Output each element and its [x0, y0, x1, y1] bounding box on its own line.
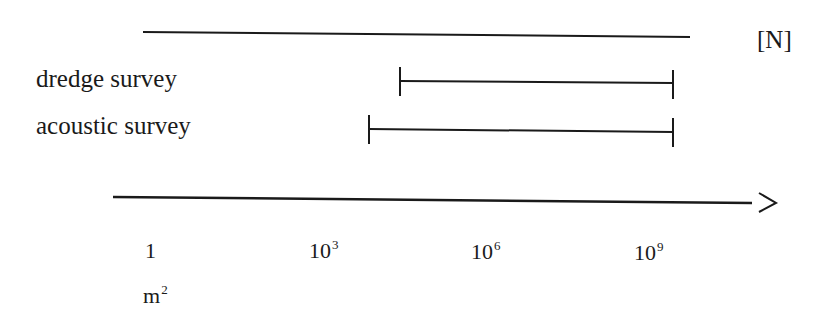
- dredge-survey-range: [400, 67, 673, 99]
- row-label-dredge-survey: dredge survey: [36, 66, 177, 91]
- row-label-acoustic-survey: acoustic survey: [36, 113, 191, 138]
- tick-label-1: 1: [145, 238, 157, 262]
- diagram-lines: [0, 0, 832, 324]
- axis-arrow-icon: [759, 193, 776, 212]
- top-reference-line: [143, 32, 690, 37]
- unit-bracket-label: [N]: [757, 27, 792, 52]
- tick-label-1e6: 106: [471, 239, 501, 263]
- area-axis-line: [113, 197, 752, 203]
- tick-label-1e3: 103: [309, 238, 339, 262]
- tick-label-1e9: 109: [634, 240, 664, 264]
- acoustic-survey-range: [369, 115, 673, 147]
- axis-unit-label: m2: [143, 283, 168, 307]
